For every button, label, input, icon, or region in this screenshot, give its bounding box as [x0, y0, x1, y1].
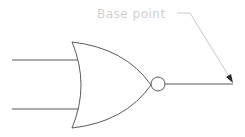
- nor-gate-body: [72, 42, 151, 128]
- nor-gate-diagram: Base point: [0, 0, 245, 137]
- inversion-bubble: [151, 77, 165, 91]
- arrowhead-icon: [226, 74, 233, 83]
- base-point-label: Base point: [97, 7, 166, 21]
- annotation-leader-line: [177, 13, 230, 78]
